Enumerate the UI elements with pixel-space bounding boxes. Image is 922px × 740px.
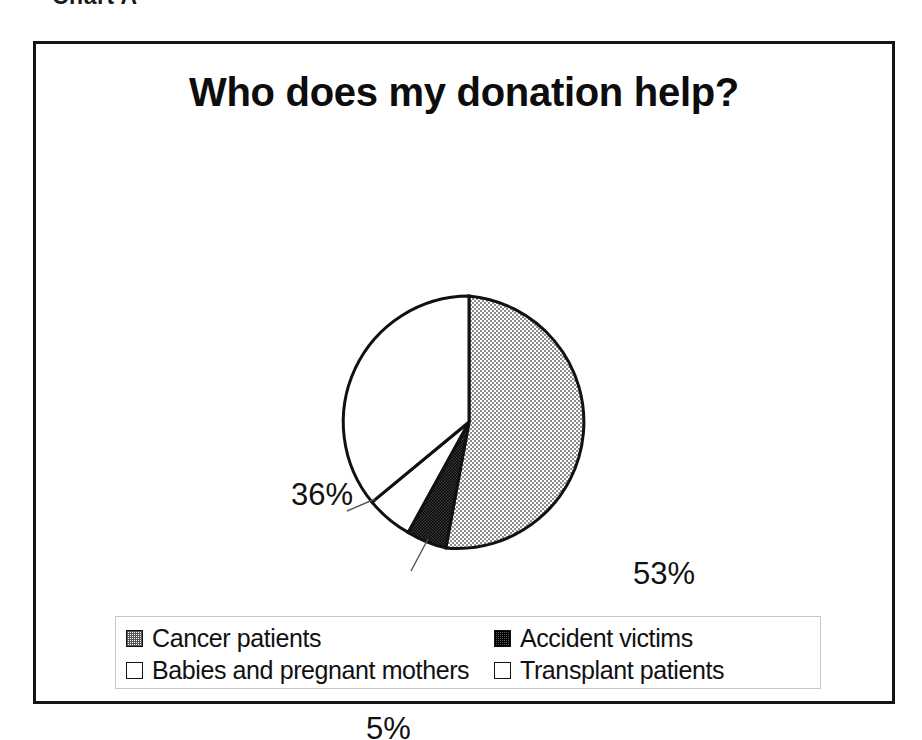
chart-title: Who does my donation help?	[36, 70, 892, 115]
legend-label: Babies and pregnant mothers	[152, 656, 469, 685]
legend-swatch-icon	[126, 662, 143, 679]
data-label-cancer-patients: 53%	[633, 556, 695, 592]
clipped-caption: Chart A	[52, 0, 138, 10]
data-label-accident-victims: 5%	[366, 711, 411, 740]
chart-frame: Who does my donation help?	[33, 41, 895, 704]
legend-grid: Cancer patients Accident victims Babies …	[126, 622, 812, 686]
leader-line-accident	[411, 539, 428, 571]
legend-label: Transplant patients	[520, 656, 724, 685]
legend-label: Cancer patients	[152, 624, 321, 653]
legend-item-cancer-patients: Cancer patients	[126, 624, 494, 653]
pie-chart: 36% 53% 6% 5%	[36, 194, 898, 594]
data-label-transplant-patients: 36%	[291, 477, 353, 513]
legend-item-babies-and-pregnant-mothers: Babies and pregnant mothers	[126, 656, 494, 685]
legend-item-transplant-patients: Transplant patients	[494, 656, 812, 685]
chart-legend: Cancer patients Accident victims Babies …	[115, 616, 821, 689]
legend-swatch-icon	[126, 630, 143, 647]
pie-svg	[36, 194, 898, 594]
legend-swatch-icon	[494, 662, 511, 679]
legend-swatch-icon	[494, 630, 511, 647]
legend-label: Accident victims	[520, 624, 693, 653]
legend-item-accident-victims: Accident victims	[494, 624, 812, 653]
